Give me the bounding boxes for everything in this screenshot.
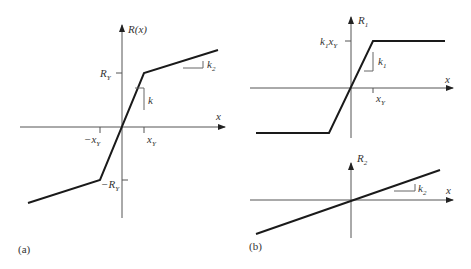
panel-a-x-label: x [215, 110, 221, 122]
label-slope-k2-b: k2 [418, 182, 427, 197]
panel-a-y-label: R(x) [127, 23, 147, 36]
figure-canvas: R(x) x RY −RY xY −xY k k2 (a) R1 x k1xY … [0, 0, 471, 269]
label-xy-b: xY [375, 92, 386, 107]
label-neg-ry: −RY [101, 178, 120, 193]
label-slope-k2: k2 [207, 58, 216, 73]
caption-b: (b) [249, 240, 262, 253]
label-slope-k1: k1 [378, 55, 386, 70]
label-neg-xy: −xY [84, 133, 101, 148]
slope-k2-indicator [183, 61, 203, 68]
linear-curve [256, 170, 440, 234]
label-slope-k: k [148, 94, 154, 106]
label-xy: xY [146, 133, 157, 148]
panel-b-bottom-x-label: x [445, 184, 451, 196]
panel-b-top-x-label: x [444, 73, 450, 85]
label-k1xy: k1xY [320, 35, 338, 50]
panel-b-bottom: R2 x k2 [250, 152, 453, 238]
panel-b-bottom-y-label: R2 [356, 152, 368, 167]
panel-a: R(x) x RY −RY xY −xY k k2 (a) [18, 23, 225, 256]
caption-a: (a) [18, 243, 31, 256]
label-ry: RY [99, 67, 112, 82]
panel-b-top-y-label: R1 [357, 14, 368, 29]
